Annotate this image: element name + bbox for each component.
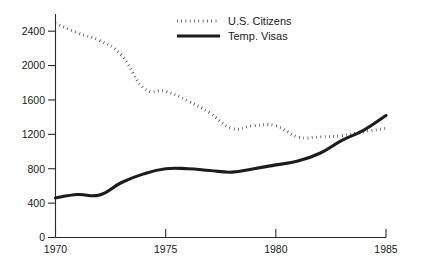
y-tick-label: 2400 bbox=[22, 25, 46, 37]
series-line-u-s-citizens bbox=[56, 23, 387, 138]
chart-legend: U.S. CitizensTemp. Visas bbox=[177, 15, 292, 42]
y-axis-ticks: 04008001200160020002400 bbox=[22, 25, 56, 243]
x-tick-label: 1975 bbox=[154, 243, 178, 255]
line-chart: 04008001200160020002400 1970197519801985… bbox=[0, 0, 421, 269]
legend-label: Temp. Visas bbox=[228, 30, 288, 42]
series-line-temp-visas bbox=[56, 115, 387, 198]
x-tick-label: 1985 bbox=[374, 243, 398, 255]
x-tick-label: 1980 bbox=[264, 243, 288, 255]
y-tick-label: 1200 bbox=[22, 128, 46, 140]
data-series-group bbox=[56, 23, 387, 198]
plot-area bbox=[56, 14, 387, 238]
y-tick-label: 1600 bbox=[22, 94, 46, 106]
y-tick-label: 2000 bbox=[22, 59, 46, 71]
y-tick-label: 400 bbox=[27, 197, 45, 209]
chart-canvas: 04008001200160020002400 1970197519801985… bbox=[0, 0, 421, 269]
legend-label: U.S. Citizens bbox=[228, 15, 292, 27]
y-tick-label: 0 bbox=[39, 231, 45, 243]
x-tick-label: 1970 bbox=[44, 243, 68, 255]
x-axis-ticks: 1970197519801985 bbox=[44, 229, 398, 255]
y-tick-label: 800 bbox=[27, 163, 45, 175]
